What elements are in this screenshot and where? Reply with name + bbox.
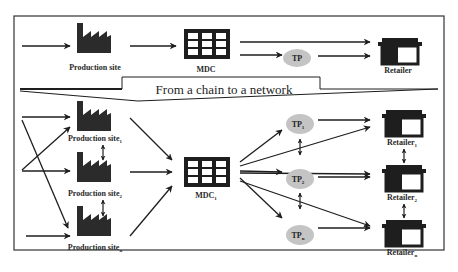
network-tps: TP1 TP2 TPn <box>286 114 314 245</box>
retailer-2-label: Retailer2 <box>387 193 418 203</box>
retailer-1-label: Retailer1 <box>387 138 418 148</box>
retailer-store-icon-2 <box>382 165 426 191</box>
production-site-label: Production site <box>69 63 121 72</box>
retailer-store-icon-1 <box>382 110 426 136</box>
factory-icon <box>77 23 111 53</box>
factory-icon-n <box>77 206 111 236</box>
production-site-n-label: Production siten <box>68 243 123 253</box>
retailer-label: Retailer <box>384 66 412 75</box>
warehouse-grid-icon <box>184 29 230 59</box>
retailer-store-icon <box>378 38 422 64</box>
network-retailers: Retailer1 Retailer2 Retailern <box>382 110 426 258</box>
retailer-n-label: Retailern <box>387 248 418 258</box>
factory-icon-1 <box>77 101 111 131</box>
mdc-1-label: MDC1 <box>195 191 217 201</box>
chain-to-network-diagram: From a chain to a network Production sit… <box>0 0 458 272</box>
warehouse-grid-icon-1 <box>184 157 230 187</box>
production-site-2-label: Production site2 <box>68 189 123 199</box>
factory-icon-2 <box>77 152 111 182</box>
tp-label: TP <box>292 54 302 63</box>
banner-title: From a chain to a network <box>156 82 293 97</box>
retailer-store-icon-n <box>382 220 426 246</box>
network-production-sites: Production site1 Production site2 Produc… <box>22 101 123 253</box>
chain-row: Production site MDC TP Retailer <box>22 23 422 75</box>
production-site-1-label: Production site1 <box>68 134 123 144</box>
sites-to-mdc-arrows <box>130 118 172 236</box>
mdc-label: MDC <box>196 65 215 74</box>
transition-banner: From a chain to a network <box>20 77 438 101</box>
